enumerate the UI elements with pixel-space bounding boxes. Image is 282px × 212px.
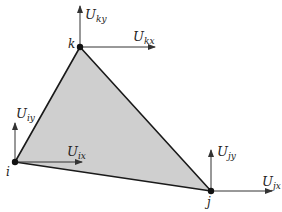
node-i-dot	[12, 159, 18, 165]
label-u-jx: Ujx	[262, 175, 281, 191]
node-label-j: j	[207, 196, 211, 208]
label-u-ix: Uix	[67, 145, 86, 161]
node-label-k: k	[68, 38, 75, 50]
node-j-dot	[208, 188, 214, 194]
label-u-iy: Uiy	[16, 107, 35, 123]
label-u-ky: Uky	[85, 8, 107, 24]
node-k-dot	[77, 44, 83, 50]
label-u-kx: Ukx	[133, 30, 155, 46]
triangle-element	[15, 47, 211, 191]
label-u-jy: Ujy	[217, 145, 236, 161]
node-label-i: i	[6, 166, 10, 178]
